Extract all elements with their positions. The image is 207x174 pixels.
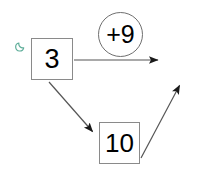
badge-plus-nine[interactable]: +9 <box>98 12 143 57</box>
diagram-canvas: 3 10 +9 <box>0 0 207 174</box>
badge-label-plus-nine: +9 <box>106 22 135 47</box>
crescent-moon-icon <box>15 38 27 50</box>
node-label-ten: 10 <box>105 130 134 156</box>
node-box-three[interactable]: 3 <box>31 38 73 80</box>
node-label-three: 3 <box>44 46 59 73</box>
arrow-ten-up-right <box>141 86 180 159</box>
arrow-three-to-ten <box>49 82 93 132</box>
node-box-ten[interactable]: 10 <box>99 122 140 164</box>
